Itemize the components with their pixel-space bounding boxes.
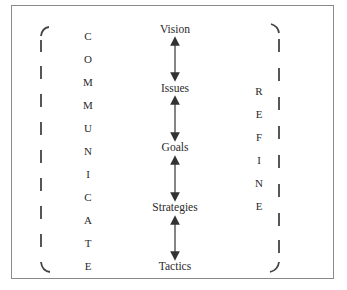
communicate-letter: M xyxy=(81,99,95,111)
right-bracket-icon xyxy=(270,24,279,272)
stage-tactics: Tactics xyxy=(125,260,225,272)
refine-letter: E xyxy=(252,200,266,212)
communicate-letter: I xyxy=(81,168,95,180)
refine-letter: E xyxy=(252,108,266,120)
communicate-letter: E xyxy=(81,260,95,272)
communicate-letter: N xyxy=(81,145,95,157)
refine-letter: I xyxy=(252,154,266,166)
communicate-letter: T xyxy=(81,237,95,249)
refine-letter: F xyxy=(252,131,266,143)
left-bracket-icon xyxy=(41,27,50,272)
refine-letter: N xyxy=(252,177,266,189)
communicate-letter: U xyxy=(81,122,95,134)
communicate-letter: A xyxy=(81,214,95,226)
stage-issues: Issues xyxy=(125,82,225,94)
refine-letter: R xyxy=(252,85,266,97)
communicate-letter: M xyxy=(81,76,95,88)
stage-strategies: Strategies xyxy=(125,201,225,213)
stage-goals: Goals xyxy=(125,141,225,153)
communicate-letter: C xyxy=(81,30,95,42)
communicate-letter: O xyxy=(81,53,95,65)
stage-vision: Vision xyxy=(125,23,225,35)
communicate-letter: C xyxy=(81,191,95,203)
